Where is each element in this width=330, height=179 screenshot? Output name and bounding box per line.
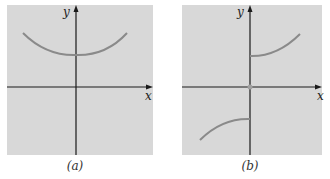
graph-panel-a: y x <box>0 0 165 160</box>
origin-point <box>248 85 253 90</box>
caption-a: (a) <box>55 159 95 173</box>
y-axis-label-b: y <box>236 5 244 19</box>
x-axis-label-a: x <box>145 89 152 103</box>
plot-area-b <box>182 5 322 155</box>
x-axis-label-b: x <box>317 89 324 103</box>
plot-area-a <box>7 5 153 155</box>
caption-b: (b) <box>230 159 270 173</box>
graph-panel-b: y x <box>165 0 330 160</box>
y-axis-label-a: y <box>62 5 70 19</box>
